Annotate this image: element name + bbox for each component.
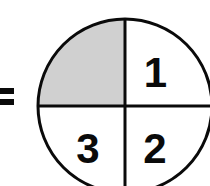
- fraction-circle-figure: 1 3 2: [0, 0, 210, 186]
- equals-sign: [0, 88, 14, 105]
- quadrant-label-3: 3: [68, 128, 108, 170]
- quadrant-label-1: 1: [135, 52, 175, 94]
- quadrant-label-2: 2: [135, 128, 175, 170]
